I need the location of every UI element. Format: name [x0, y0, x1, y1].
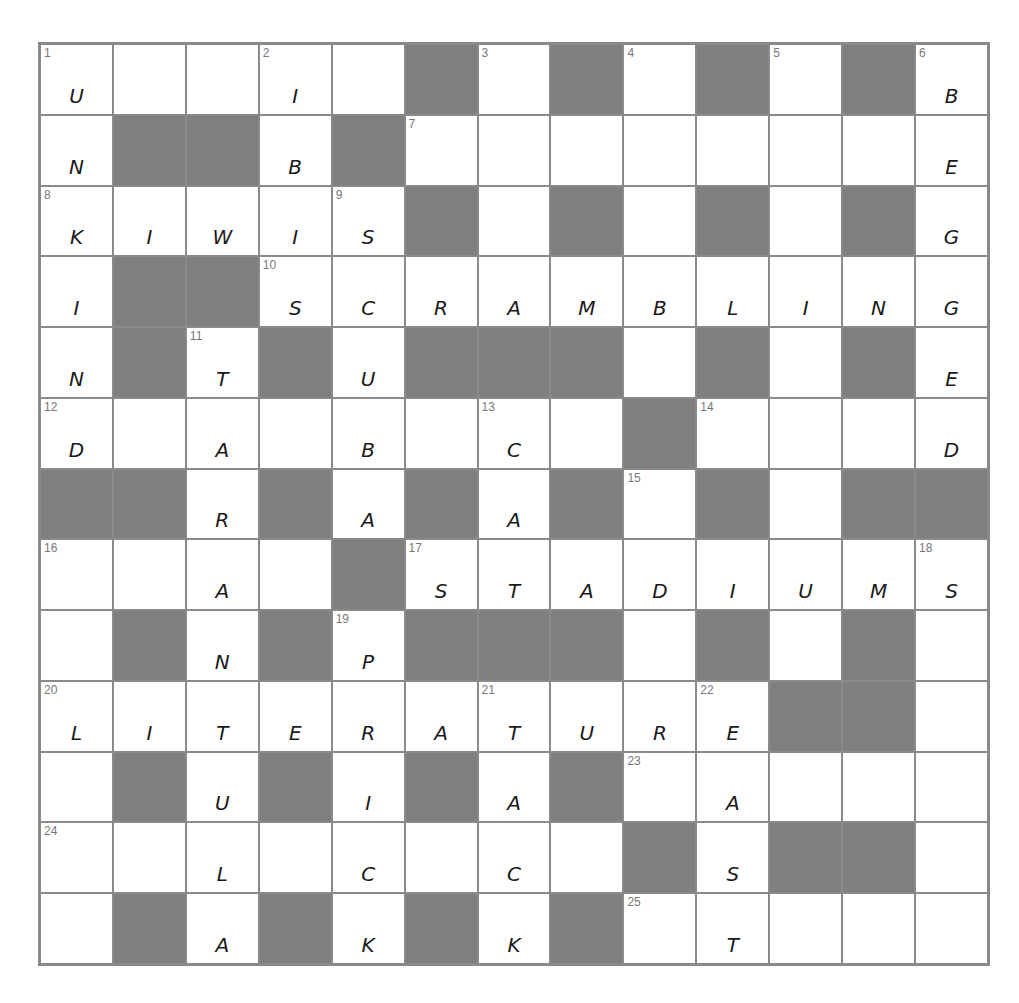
- grid-cell[interactable]: [770, 894, 841, 963]
- grid-cell[interactable]: M: [843, 540, 914, 609]
- grid-cell[interactable]: I: [41, 257, 112, 326]
- grid-cell[interactable]: 11T: [187, 328, 258, 397]
- grid-cell[interactable]: [624, 187, 695, 256]
- grid-cell[interactable]: R: [333, 682, 404, 751]
- grid-cell[interactable]: B: [624, 257, 695, 326]
- grid-cell[interactable]: [41, 611, 112, 680]
- grid-cell[interactable]: 3: [479, 45, 550, 114]
- grid-cell[interactable]: A: [333, 470, 404, 539]
- grid-cell[interactable]: A: [479, 753, 550, 822]
- grid-cell[interactable]: K: [333, 894, 404, 963]
- grid-cell[interactable]: I: [114, 187, 185, 256]
- grid-cell[interactable]: I: [333, 753, 404, 822]
- grid-cell[interactable]: A: [187, 399, 258, 468]
- grid-cell[interactable]: [843, 753, 914, 822]
- grid-cell[interactable]: 8K: [41, 187, 112, 256]
- grid-cell[interactable]: [479, 187, 550, 256]
- grid-cell[interactable]: N: [41, 116, 112, 185]
- grid-cell[interactable]: D: [916, 399, 987, 468]
- grid-cell[interactable]: [843, 894, 914, 963]
- grid-cell[interactable]: I: [770, 257, 841, 326]
- grid-cell[interactable]: [260, 399, 331, 468]
- grid-cell[interactable]: R: [406, 257, 477, 326]
- grid-cell[interactable]: U: [187, 753, 258, 822]
- grid-cell[interactable]: [41, 753, 112, 822]
- grid-cell[interactable]: [916, 611, 987, 680]
- grid-cell[interactable]: [624, 328, 695, 397]
- grid-cell[interactable]: 15: [624, 470, 695, 539]
- grid-cell[interactable]: [770, 328, 841, 397]
- grid-cell[interactable]: 4: [624, 45, 695, 114]
- grid-cell[interactable]: A: [187, 540, 258, 609]
- grid-cell[interactable]: [843, 399, 914, 468]
- grid-cell[interactable]: I: [114, 682, 185, 751]
- grid-cell[interactable]: C: [479, 823, 550, 892]
- grid-cell[interactable]: [916, 753, 987, 822]
- grid-cell[interactable]: [114, 823, 185, 892]
- grid-cell[interactable]: [551, 399, 622, 468]
- grid-cell[interactable]: [114, 540, 185, 609]
- grid-cell[interactable]: B: [260, 116, 331, 185]
- grid-cell[interactable]: [770, 399, 841, 468]
- grid-cell[interactable]: [333, 45, 404, 114]
- grid-cell[interactable]: L: [697, 257, 768, 326]
- grid-cell[interactable]: M: [551, 257, 622, 326]
- grid-cell[interactable]: R: [624, 682, 695, 751]
- grid-cell[interactable]: 18S: [916, 540, 987, 609]
- grid-cell[interactable]: [114, 45, 185, 114]
- grid-cell[interactable]: [260, 540, 331, 609]
- grid-cell[interactable]: [697, 116, 768, 185]
- grid-cell[interactable]: [406, 823, 477, 892]
- grid-cell[interactable]: 23: [624, 753, 695, 822]
- grid-cell[interactable]: N: [843, 257, 914, 326]
- grid-cell[interactable]: C: [333, 257, 404, 326]
- grid-cell[interactable]: 13C: [479, 399, 550, 468]
- grid-cell[interactable]: A: [551, 540, 622, 609]
- grid-cell[interactable]: B: [333, 399, 404, 468]
- grid-cell[interactable]: E: [260, 682, 331, 751]
- grid-cell[interactable]: G: [916, 187, 987, 256]
- grid-cell[interactable]: 21T: [479, 682, 550, 751]
- grid-cell[interactable]: 16: [41, 540, 112, 609]
- grid-cell[interactable]: S: [697, 823, 768, 892]
- grid-cell[interactable]: A: [479, 257, 550, 326]
- grid-cell[interactable]: A: [697, 753, 768, 822]
- grid-cell[interactable]: C: [333, 823, 404, 892]
- grid-cell[interactable]: [770, 611, 841, 680]
- grid-cell[interactable]: D: [624, 540, 695, 609]
- grid-cell[interactable]: [624, 611, 695, 680]
- grid-cell[interactable]: 6B: [916, 45, 987, 114]
- grid-cell[interactable]: 10S: [260, 257, 331, 326]
- grid-cell[interactable]: U: [551, 682, 622, 751]
- grid-cell[interactable]: I: [697, 540, 768, 609]
- grid-cell[interactable]: 20L: [41, 682, 112, 751]
- grid-cell[interactable]: [260, 823, 331, 892]
- grid-cell[interactable]: A: [406, 682, 477, 751]
- grid-cell[interactable]: [114, 399, 185, 468]
- grid-cell[interactable]: 24: [41, 823, 112, 892]
- grid-cell[interactable]: 19P: [333, 611, 404, 680]
- grid-cell[interactable]: [916, 894, 987, 963]
- grid-cell[interactable]: E: [916, 328, 987, 397]
- grid-cell[interactable]: 1U: [41, 45, 112, 114]
- grid-cell[interactable]: N: [41, 328, 112, 397]
- grid-cell[interactable]: [551, 823, 622, 892]
- grid-cell[interactable]: 14: [697, 399, 768, 468]
- grid-cell[interactable]: 25: [624, 894, 695, 963]
- grid-cell[interactable]: 2I: [260, 45, 331, 114]
- grid-cell[interactable]: R: [187, 470, 258, 539]
- grid-cell[interactable]: 5: [770, 45, 841, 114]
- grid-cell[interactable]: [187, 45, 258, 114]
- grid-cell[interactable]: [770, 470, 841, 539]
- grid-cell[interactable]: [41, 894, 112, 963]
- grid-cell[interactable]: [770, 753, 841, 822]
- grid-cell[interactable]: K: [479, 894, 550, 963]
- grid-cell[interactable]: T: [697, 894, 768, 963]
- grid-cell[interactable]: T: [187, 682, 258, 751]
- grid-cell[interactable]: [479, 116, 550, 185]
- grid-cell[interactable]: A: [187, 894, 258, 963]
- grid-cell[interactable]: 22E: [697, 682, 768, 751]
- grid-cell[interactable]: E: [916, 116, 987, 185]
- grid-cell[interactable]: 7: [406, 116, 477, 185]
- grid-cell[interactable]: 17S: [406, 540, 477, 609]
